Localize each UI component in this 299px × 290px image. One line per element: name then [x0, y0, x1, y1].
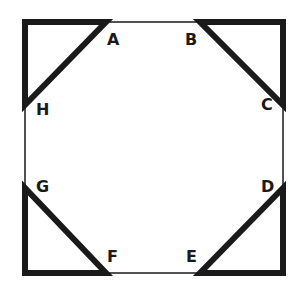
corner-triangle-bottom-left	[25, 188, 106, 273]
label-c: C	[261, 95, 273, 114]
outer-square	[25, 22, 283, 273]
label-d: D	[261, 177, 274, 196]
label-g: G	[36, 177, 49, 196]
corner-triangle-bottom-right	[200, 188, 283, 273]
corner-triangle-top-left	[25, 22, 106, 105]
label-a: A	[107, 30, 120, 49]
octagon-diagram: A B C D E F G H	[0, 0, 299, 290]
label-b: B	[185, 30, 197, 49]
label-e: E	[186, 247, 197, 266]
label-f: F	[107, 247, 118, 266]
corner-triangle-top-right	[200, 22, 283, 105]
label-h: H	[36, 100, 49, 119]
